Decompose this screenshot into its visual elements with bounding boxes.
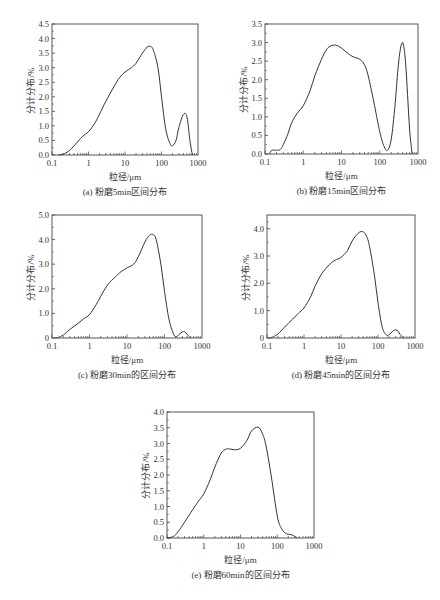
y-tick-label: 4.0 (153, 407, 164, 417)
distribution-curve (167, 427, 297, 538)
chart-caption: (e) 粉磨60min的区间分布 (191, 568, 289, 581)
x-axis-label: 粒径/μm (224, 553, 256, 566)
x-tick-label: 100 (271, 541, 284, 551)
plot-frame (167, 412, 314, 538)
y-tick-label: 0.5 (153, 517, 164, 527)
y-tick-label: 1.5 (153, 486, 164, 496)
x-tick-label: 1 (202, 541, 206, 551)
y-tick-label: 3.0 (153, 439, 164, 449)
x-tick-label: 0.1 (162, 541, 173, 551)
chart-e-plot: 0.00.51.01.52.02.53.03.54.00.11101001000 (0, 0, 440, 600)
y-axis-label: 分计分布/% (139, 436, 152, 516)
x-tick-label: 1000 (306, 541, 323, 551)
x-tick-label: 10 (236, 541, 245, 551)
y-tick-label: 2.5 (153, 454, 164, 464)
y-tick-label: 2.0 (153, 470, 164, 480)
y-tick-label: 3.5 (153, 423, 164, 433)
y-tick-label: 1.0 (153, 502, 164, 512)
